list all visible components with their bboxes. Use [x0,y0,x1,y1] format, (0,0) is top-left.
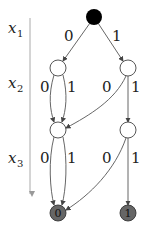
edge-label-x2left-0: 0 [40,78,50,96]
edge-x3left-1 [62,137,66,205]
variable-label-x2: x 2 [8,74,23,94]
svg-text:x: x [8,149,17,167]
terminal-label-1: 1 [125,207,132,220]
svg-text:x: x [8,74,17,92]
node-x3-right [120,122,136,138]
variable-label-x3: x 3 [8,149,23,169]
variable-label-x1: x 1 [8,19,23,39]
svg-text:2: 2 [17,83,23,94]
edge-label-x3right-1: 1 [131,149,141,167]
edge-label-root-1: 1 [112,27,122,45]
svg-text:3: 3 [17,158,23,169]
edge-label-x2left-1: 1 [67,78,77,96]
terminal-label-0: 0 [55,207,62,220]
edge-label-root-0: 0 [64,27,74,45]
edge-label-x3left-1: 1 [67,149,77,167]
edge-label-x3left-0: 0 [40,149,50,167]
root-node [86,9,102,25]
node-x2-left [50,60,66,76]
edge-label-x2right-1: 1 [131,78,141,96]
node-x2-right [120,60,136,76]
svg-text:1: 1 [17,28,23,39]
node-x3-left [50,122,66,138]
edge-x3left-0 [50,137,54,205]
svg-text:x: x [8,19,17,37]
bdd-diagram: x 1 x 2 x 3 0 1 0 1 0 1 0 1 0 1 0 1 [0,0,149,233]
edge-label-x3right-0: 0 [102,149,112,167]
edge-x2left-0 [50,75,54,122]
edge-label-x2right-0: 0 [102,78,112,96]
edge-x2left-1 [62,75,66,122]
